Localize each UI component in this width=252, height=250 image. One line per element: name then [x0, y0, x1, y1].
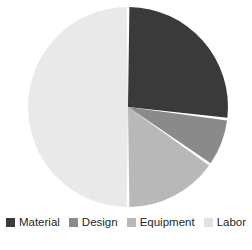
chart-legend: MaterialDesignEquipmentLabor [0, 211, 252, 233]
pie-slice-material [128, 7, 228, 118]
legend-item-equipment[interactable]: Equipment [127, 216, 195, 229]
legend-swatch-equipment-icon [127, 218, 136, 227]
legend-swatch-labor-icon [204, 218, 213, 227]
legend-item-labor[interactable]: Labor [204, 216, 246, 229]
legend-label: Design [82, 216, 118, 229]
pie-slice-labor [28, 7, 128, 207]
pie-plot-area [0, 0, 252, 212]
legend-label: Labor [217, 216, 246, 229]
legend-label: Equipment [140, 216, 195, 229]
legend-item-design[interactable]: Design [69, 216, 118, 229]
pie-slice-group [28, 7, 228, 207]
legend-swatch-material-icon [6, 218, 15, 227]
pie-chart-figure: MaterialDesignEquipmentLabor [0, 0, 252, 250]
legend-item-material[interactable]: Material [6, 216, 60, 229]
pie-svg [0, 0, 252, 212]
legend-label: Material [19, 216, 60, 229]
legend-swatch-design-icon [69, 218, 78, 227]
